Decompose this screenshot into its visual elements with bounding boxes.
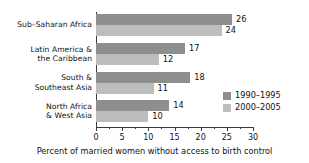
bar-value-label: 18 bbox=[194, 72, 204, 83]
bar-value-label: 17 bbox=[189, 43, 199, 54]
x-tick-major bbox=[201, 127, 202, 131]
x-tick-minor bbox=[135, 127, 136, 129]
x-tick-label: 25 bbox=[215, 133, 239, 143]
category-label: Latin America &the Caribbean bbox=[0, 45, 92, 64]
x-tick-label: 20 bbox=[189, 133, 213, 143]
bar bbox=[96, 14, 232, 25]
x-tick-label: 5 bbox=[110, 133, 134, 143]
x-tick-major bbox=[227, 127, 228, 131]
x-tick-major bbox=[253, 127, 254, 131]
category-label: North Africa& West Asia bbox=[0, 102, 92, 121]
plot-area: 2624171218111410 051015202530 1990–1995 … bbox=[96, 12, 253, 127]
legend-label: 2000–2005 bbox=[235, 102, 281, 113]
x-tick-major bbox=[175, 127, 176, 131]
x-tick-label: 30 bbox=[241, 133, 265, 143]
x-tick-major bbox=[96, 127, 97, 131]
bar bbox=[96, 100, 169, 111]
x-tick-label: 10 bbox=[136, 133, 160, 143]
bar-value-label: 24 bbox=[226, 25, 236, 36]
legend-label: 1990–1995 bbox=[235, 90, 281, 101]
bar-value-label: 12 bbox=[163, 54, 173, 65]
category-label: Sub–Saharan Africa bbox=[0, 20, 92, 29]
x-tick-minor bbox=[214, 127, 215, 129]
x-tick-major bbox=[148, 127, 149, 131]
legend-swatch-icon bbox=[223, 92, 231, 100]
x-tick-label: 0 bbox=[84, 133, 108, 143]
x-tick-minor bbox=[240, 127, 241, 129]
x-tick-minor bbox=[188, 127, 189, 129]
category-label: South &Southeast Asia bbox=[0, 73, 92, 92]
bar bbox=[96, 54, 159, 65]
birth-control-access-bar-chart: Sub–Saharan AfricaLatin America &the Car… bbox=[0, 0, 309, 163]
legend: 1990–1995 2000–2005 bbox=[223, 90, 281, 114]
bar-value-label: 14 bbox=[173, 100, 183, 111]
x-tick-major bbox=[122, 127, 123, 131]
x-tick-minor bbox=[161, 127, 162, 129]
category-axis-labels: Sub–Saharan AfricaLatin America &the Car… bbox=[0, 12, 92, 127]
bar bbox=[96, 111, 148, 122]
bar bbox=[96, 43, 185, 54]
legend-item: 1990–1995 bbox=[223, 90, 281, 101]
legend-swatch-icon bbox=[223, 104, 231, 112]
bar bbox=[96, 25, 222, 36]
x-axis-title: Percent of married women without access … bbox=[0, 146, 309, 157]
bar bbox=[96, 83, 154, 94]
legend-item: 2000–2005 bbox=[223, 102, 281, 113]
bar bbox=[96, 72, 190, 83]
bar-value-label: 26 bbox=[236, 14, 246, 25]
x-tick-minor bbox=[109, 127, 110, 129]
x-tick-label: 15 bbox=[163, 133, 187, 143]
bar-value-label: 11 bbox=[158, 83, 168, 94]
bar-value-label: 10 bbox=[152, 111, 162, 122]
